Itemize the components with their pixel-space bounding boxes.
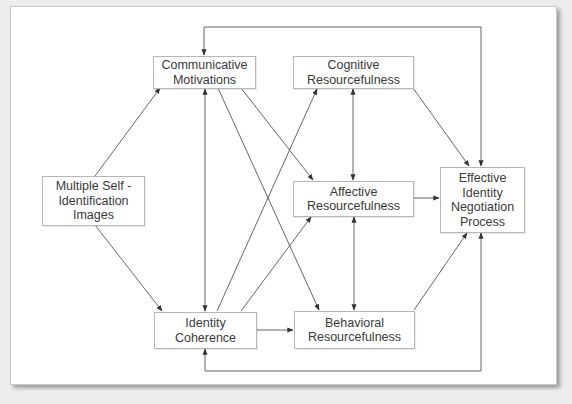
node-label: Communicative Motivations [161, 58, 247, 87]
edge-effective-to-coherence-bottom [205, 233, 481, 371]
edge-behavioral-to-effective [414, 233, 467, 310]
edge-effective-to-communicative-top [204, 27, 481, 166]
edge-coherence-to-affective [241, 217, 311, 311]
node-behavioral-resourcefulness: Behavioral Resourcefulness [294, 311, 415, 349]
node-multiple-self-identification-images: Multiple Self - Identification Images [42, 176, 145, 226]
edge-multiself-to-communicative [95, 88, 160, 176]
node-affective-resourcefulness: Affective Resourcefulness [293, 181, 414, 217]
node-label: Cognitive Resourcefulness [307, 58, 400, 87]
node-identity-coherence: Identity Coherence [154, 312, 257, 349]
edge-multiself-to-coherence [95, 225, 162, 311]
edge-cognitive-to-effective [413, 88, 469, 166]
node-label: Behavioral Resourcefulness [308, 316, 401, 345]
edge-communicative-to-affective [241, 88, 313, 180]
node-label: Affective Resourcefulness [307, 185, 400, 214]
node-communicative-motivations: Communicative Motivations [153, 56, 256, 89]
node-label: Effective Identity Negotiation Process [451, 171, 514, 229]
node-cognitive-resourcefulness: Cognitive Resourcefulness [293, 56, 414, 89]
node-effective-identity-negotiation-process: Effective Identity Negotiation Process [440, 167, 525, 233]
node-label: Multiple Self - Identification Images [56, 179, 132, 223]
node-label: Identity Coherence [175, 316, 236, 345]
